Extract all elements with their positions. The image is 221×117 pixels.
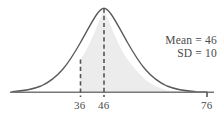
normal-curve-figure: Mean = 46 SD = 10 36 46 76 bbox=[0, 0, 221, 117]
sd-annotation: SD = 10 bbox=[177, 47, 217, 60]
x-tick-label-36: 36 bbox=[74, 99, 85, 111]
x-tick-label-46: 46 bbox=[98, 99, 109, 111]
mean-annotation: Mean = 46 bbox=[165, 34, 217, 47]
x-tick-label-76: 76 bbox=[201, 99, 212, 111]
